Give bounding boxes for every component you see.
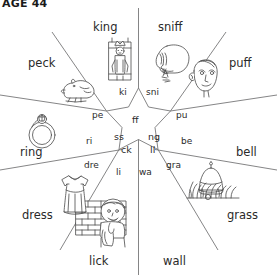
licking-child-icon xyxy=(92,196,134,248)
grass-icon xyxy=(185,178,241,200)
spoke-left-lower xyxy=(0,150,122,171)
word-label-puff: puff xyxy=(229,56,252,70)
word-label-lick: lick xyxy=(89,254,108,268)
onset-label-king: ki xyxy=(119,87,127,97)
dress-icon xyxy=(57,172,93,220)
onset-label-dress: dre xyxy=(84,160,99,170)
ring-icon xyxy=(24,112,60,150)
word-label-sniff: sniff xyxy=(158,20,182,34)
word-label-wall: wall xyxy=(163,254,186,268)
word-label-peck: peck xyxy=(28,56,55,70)
onset-label-sniff: sni xyxy=(146,87,159,97)
onset-label-bell: be xyxy=(181,136,192,146)
onset-label-wall: wa xyxy=(139,167,152,177)
onset-label-grass: gra xyxy=(166,160,181,170)
word-label-dress: dress xyxy=(22,208,53,222)
ending-label-ll: ll xyxy=(150,144,155,155)
puffing-face-icon xyxy=(182,57,222,101)
onset-label-puff: pu xyxy=(176,110,187,120)
ending-label-ff: ff xyxy=(132,114,139,125)
onset-label-peck: pe xyxy=(92,110,103,120)
onset-label-lick: li xyxy=(116,167,121,177)
ending-label-ss: ss xyxy=(114,131,124,142)
word-label-king: king xyxy=(93,20,117,34)
ending-label-ck: ck xyxy=(121,144,132,155)
word-label-grass: grass xyxy=(227,208,258,222)
word-label-bell: bell xyxy=(236,145,257,159)
chicken-icon xyxy=(56,76,102,104)
ending-label-ng: ng xyxy=(148,131,160,142)
page-canvas: AGE 44 ff ng ss ck ll pe ki sni pu be gr… xyxy=(0,0,277,278)
king-icon xyxy=(104,36,136,84)
onset-label-ring: ri xyxy=(86,136,92,146)
